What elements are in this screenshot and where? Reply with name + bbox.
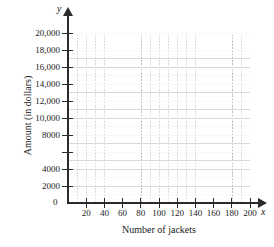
x-axis-tick	[213, 198, 214, 208]
y-axis-tick	[62, 169, 73, 170]
x-axis-tick	[231, 198, 232, 208]
x-axis-tick	[104, 198, 105, 208]
x-axis-tick	[122, 198, 123, 208]
y-axis-tick	[62, 118, 73, 119]
x-axis-tick	[140, 198, 141, 208]
x-axis-tick	[159, 198, 160, 208]
y-axis-tick	[62, 186, 73, 187]
x-axis-tick	[86, 198, 87, 208]
coordinate-grid-figure: y x 0 20004000800010,00012,00014,00016,0…	[0, 0, 274, 247]
x-axis-tick-label: 200	[235, 209, 265, 218]
y-axis-tick	[62, 33, 73, 34]
y-axis-arrow-icon	[63, 7, 73, 16]
x-axis-tick	[177, 198, 178, 208]
y-axis-title: Amount (in dollars)	[22, 36, 33, 196]
y-axis-tick	[62, 101, 73, 102]
y-axis-tick	[62, 67, 73, 68]
y-axis-tick	[62, 84, 73, 85]
x-axis-tick	[195, 198, 196, 208]
y-axis-tick-labels: 20004000800010,00012,00014,00016,00018,0…	[12, 0, 60, 247]
x-axis-title: Number of jackets	[68, 224, 250, 235]
x-axis-tick	[250, 198, 251, 208]
plot-area	[68, 33, 250, 203]
y-axis-tick	[62, 135, 73, 136]
y-axis-tick	[62, 50, 73, 51]
x-axis-line	[67, 202, 259, 204]
minor-grid-overlay	[68, 33, 250, 203]
y-axis-line	[67, 14, 69, 204]
y-axis-tick	[62, 152, 73, 153]
